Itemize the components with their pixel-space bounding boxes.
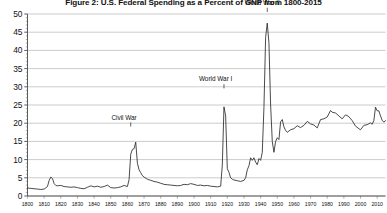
annotations-group: Civil WarWorld War IWorld War II [111,0,280,127]
chart-annotation-label: World War II [245,0,280,6]
y-axis-ticks [24,14,27,196]
y-tick-label: 25 [13,100,23,110]
y-tick-label: 20 [13,118,23,128]
gridlines-group [28,14,386,196]
x-tick-label: 1810 [38,201,50,207]
x-tick-label: 1940 [255,201,267,207]
x-tick-label: 1890 [172,201,184,207]
x-tick-label: 1800 [22,201,34,207]
y-tick-label: 15 [13,136,23,146]
x-tick-label: 2010 [371,201,383,207]
x-tick-label: 1970 [305,201,317,207]
chart-annotation-label: Civil War [111,114,137,121]
data-series-line [28,23,386,189]
x-tick-label: 1980 [321,201,333,207]
x-tick-label: 1820 [55,201,67,207]
x-tick-label: 1950 [271,201,283,207]
chart-annotation-label: World War I [199,75,233,82]
x-tick-label: 1880 [155,201,167,207]
y-tick-label: 30 [13,82,23,92]
x-tick-label: 2000 [355,201,367,207]
y-tick-label: 45 [13,27,23,37]
x-tick-label: 1910 [205,201,217,207]
y-axis-tick-labels: 05101520253035404550 [13,9,23,201]
x-tick-label: 1920 [222,201,234,207]
y-tick-label: 40 [13,45,23,55]
x-tick-label: 1830 [72,201,84,207]
y-tick-label: 0 [18,191,23,201]
chart-plot-area: 05101520253035404550 1800181018201830184… [0,0,387,213]
x-tick-label: 1860 [122,201,134,207]
x-tick-label: 1990 [338,201,350,207]
x-tick-label: 1960 [288,201,300,207]
y-tick-label: 5 [18,173,23,183]
x-tick-label: 1930 [238,201,250,207]
data-series-group [28,23,386,189]
x-tick-label: 1850 [105,201,117,207]
x-axis-tick-labels: 1800181018201830184018501860187018801890… [22,201,383,207]
x-tick-label: 1840 [88,201,100,207]
x-tick-label: 1900 [188,201,200,207]
y-tick-label: 10 [13,155,23,165]
figure-container: Figure 2: U.S. Federal Spending as a Per… [0,0,387,213]
y-tick-label: 50 [13,9,23,19]
y-tick-label: 35 [13,64,23,74]
x-tick-label: 1870 [138,201,150,207]
